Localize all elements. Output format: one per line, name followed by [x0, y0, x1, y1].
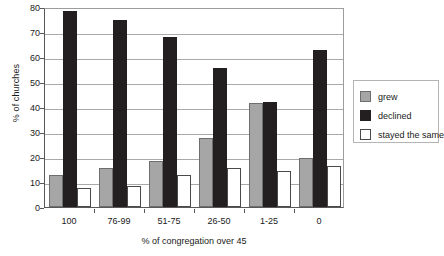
bar-group — [195, 9, 245, 207]
bar-declined — [63, 11, 77, 207]
bar-same — [177, 175, 191, 208]
y-axis-tick-mark — [40, 183, 44, 184]
bar-grew — [49, 175, 63, 208]
bar-group — [295, 9, 345, 207]
y-axis-tick-mark — [40, 133, 44, 134]
x-axis-tick-label: 100 — [61, 216, 76, 226]
y-axis-tick-label: 80 — [0, 3, 40, 13]
bar-same — [327, 166, 341, 207]
legend-swatch-icon — [360, 110, 371, 121]
x-axis-title: % of congregation over 45 — [44, 236, 344, 246]
bar-grew — [249, 103, 263, 207]
x-axis-tick-label: 76-99 — [107, 216, 130, 226]
x-axis-tick-mark — [244, 209, 245, 213]
bar-declined — [263, 102, 277, 207]
y-axis-tick-label: 60 — [0, 53, 40, 63]
legend-item-stayed-the-same[interactable]: stayed the same — [360, 125, 438, 144]
y-axis-tick-label: 70 — [0, 28, 40, 38]
bar-group — [45, 9, 95, 207]
bar-grew — [199, 138, 213, 207]
x-axis-tick-label: 1-25 — [260, 216, 278, 226]
y-axis-tick-mark — [40, 158, 44, 159]
x-axis-tick-mark — [194, 209, 195, 213]
legend-item-declined[interactable]: declined — [360, 106, 438, 125]
bar-same — [227, 168, 241, 207]
y-axis-tick-mark — [40, 83, 44, 84]
bar-declined — [313, 50, 327, 208]
x-axis-tick-label: 0 — [316, 216, 321, 226]
bar-same — [127, 186, 141, 207]
bar-group — [245, 9, 295, 207]
y-axis-tick-label: 10 — [0, 178, 40, 188]
legend-item-grew[interactable]: grew — [360, 87, 438, 106]
y-axis-tick-label: 30 — [0, 128, 40, 138]
y-axis-tick-mark — [40, 208, 44, 209]
bar-declined — [163, 37, 177, 207]
bar-grew — [299, 158, 313, 207]
bar-group — [95, 9, 145, 207]
bar-grew — [99, 168, 113, 207]
legend-item-label: grew — [378, 92, 398, 102]
bar-same — [277, 171, 291, 207]
legend-item-label: declined — [378, 111, 412, 121]
bar-group — [145, 9, 195, 207]
bar-declined — [113, 20, 127, 208]
y-axis-tick-label: 50 — [0, 78, 40, 88]
bar-declined — [213, 68, 227, 207]
y-axis-tick-mark — [40, 33, 44, 34]
x-axis-tick-label: 51-75 — [157, 216, 180, 226]
chart-legend: grewdeclinedstayed the same — [353, 80, 439, 143]
y-axis-tick-mark — [40, 58, 44, 59]
bar-grew — [149, 161, 163, 207]
y-axis-tick-label: 0 — [0, 203, 40, 213]
y-axis-tick-label: 40 — [0, 103, 40, 113]
x-axis-tick-label: 26-50 — [207, 216, 230, 226]
legend-swatch-icon — [360, 91, 371, 102]
bar-same — [77, 188, 91, 207]
x-axis-tick-mark — [144, 209, 145, 213]
y-axis-tick-mark — [40, 8, 44, 9]
legend-item-label: stayed the same — [378, 130, 444, 140]
x-axis-tick-mark — [294, 209, 295, 213]
legend-swatch-icon — [360, 129, 371, 140]
x-axis-tick-mark — [94, 209, 95, 213]
plot-area — [44, 8, 344, 208]
y-axis-tick-mark — [40, 108, 44, 109]
y-axis-tick-label: 20 — [0, 153, 40, 163]
